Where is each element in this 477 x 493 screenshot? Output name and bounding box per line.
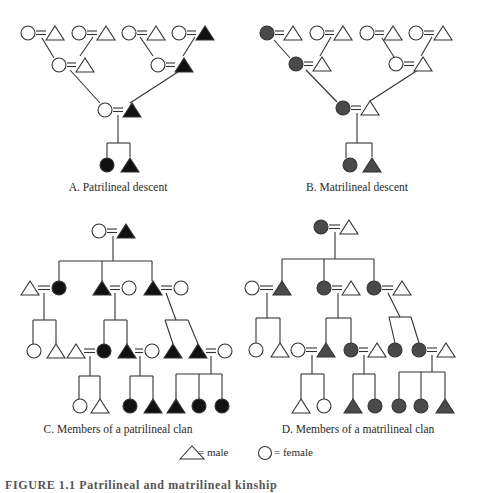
male-triangle-icon — [76, 58, 94, 72]
female-circle-icon — [122, 26, 136, 40]
female-circle-icon — [72, 26, 86, 40]
male-filled-triangle-icon — [344, 399, 362, 413]
female-filled-circle-icon — [52, 281, 66, 295]
female-circle-icon — [122, 281, 136, 295]
panel-matrilineal-descent — [260, 26, 452, 172]
descent-line — [306, 70, 337, 102]
male-filled-triangle-icon — [144, 399, 162, 413]
descent-line — [183, 37, 195, 56]
female-circle-icon — [389, 57, 403, 71]
descent-line — [165, 320, 173, 344]
male-filled-triangle-icon — [167, 399, 185, 413]
descent-line — [166, 293, 176, 320]
male-filled-triangle-icon — [436, 399, 454, 413]
caption-panel-c: C. Members of a patrilineal clan — [44, 423, 193, 435]
male-filled-triangle-icon — [164, 344, 182, 358]
descent-line — [320, 37, 331, 56]
male-triangle-icon — [368, 343, 386, 357]
legend-female-label: = female — [274, 446, 313, 458]
female-filled-circle-icon — [317, 281, 331, 295]
female-circle-icon — [92, 224, 106, 238]
female-circle-icon — [52, 58, 66, 72]
descent-line — [388, 293, 400, 317]
female-filled-circle-icon — [367, 281, 381, 295]
female-circle-icon — [249, 343, 263, 357]
female-filled-circle-icon — [100, 158, 114, 172]
legend-female-circle-icon — [259, 447, 272, 460]
female-circle-icon — [98, 103, 112, 117]
male-filled-triangle-icon — [117, 224, 135, 238]
male-triangle-icon — [271, 343, 289, 357]
male-triangle-icon — [340, 220, 358, 234]
panel-matrilineal-clan — [245, 220, 455, 413]
female-circle-icon — [27, 344, 41, 358]
male-triangle-icon — [393, 281, 411, 295]
female-filled-circle-icon — [314, 220, 328, 234]
female-filled-circle-icon — [414, 399, 428, 413]
female-circle-icon — [172, 26, 186, 40]
female-filled-circle-icon — [336, 101, 350, 115]
female-filled-circle-icon — [215, 399, 229, 413]
male-filled-triangle-icon — [189, 344, 207, 358]
female-filled-circle-icon — [412, 343, 426, 357]
male-triangle-icon — [21, 281, 39, 295]
male-triangle-icon — [334, 26, 352, 40]
caption-panel-b: B. Matrilineal descent — [306, 181, 408, 193]
female-circle-icon — [409, 26, 423, 40]
female-circle-icon — [145, 344, 159, 358]
descent-line — [130, 70, 181, 103]
male-triangle-icon — [437, 343, 455, 357]
male-filled-triangle-icon — [121, 158, 139, 172]
male-triangle-icon — [284, 26, 302, 40]
caption-panel-d: D. Members of a matrilineal clan — [282, 423, 435, 435]
male-triangle-icon — [342, 281, 360, 295]
panel-patrilineal-descent — [21, 26, 214, 172]
male-triangle-icon — [292, 399, 310, 413]
female-filled-circle-icon — [368, 399, 382, 413]
male-filled-triangle-icon — [175, 58, 193, 72]
female-filled-circle-icon — [192, 399, 206, 413]
female-circle-icon — [245, 281, 259, 295]
male-filled-triangle-icon — [196, 26, 214, 40]
female-filled-circle-icon — [344, 343, 358, 357]
female-circle-icon — [151, 58, 165, 72]
descent-line — [274, 40, 290, 58]
male-filled-triangle-icon — [363, 158, 381, 172]
descent-line — [370, 70, 418, 101]
male-triangle-icon — [67, 344, 85, 358]
female-circle-icon — [218, 344, 232, 358]
female-circle-icon — [174, 281, 188, 295]
descent-line — [42, 38, 54, 58]
female-circle-icon — [73, 399, 87, 413]
female-filled-circle-icon — [343, 158, 357, 172]
male-triangle-icon — [361, 101, 379, 115]
descent-line — [382, 38, 394, 57]
male-filled-triangle-icon — [273, 281, 291, 295]
male-triangle-icon — [434, 26, 452, 40]
descent-line — [70, 70, 100, 103]
female-filled-circle-icon — [289, 57, 303, 71]
descent-line — [389, 317, 395, 343]
male-triangle-icon — [97, 26, 115, 40]
descent-line — [188, 320, 198, 344]
female-circle-icon — [310, 26, 324, 40]
male-filled-triangle-icon — [118, 344, 136, 358]
male-triangle-icon — [47, 344, 65, 358]
male-triangle-icon — [147, 26, 165, 40]
female-circle-icon — [317, 399, 331, 413]
male-triangle-icon — [313, 57, 331, 71]
male-filled-triangle-icon — [123, 103, 141, 117]
female-filled-circle-icon — [260, 26, 274, 40]
female-filled-circle-icon — [392, 399, 406, 413]
legend-male-label: = male — [198, 446, 228, 458]
panel-patrilineal-clan — [21, 224, 232, 413]
female-filled-circle-icon — [388, 343, 402, 357]
male-filled-triangle-icon — [144, 281, 162, 295]
female-circle-icon — [360, 26, 374, 40]
descent-line — [421, 37, 432, 56]
female-filled-circle-icon — [123, 399, 137, 413]
female-filled-circle-icon — [97, 344, 111, 358]
male-triangle-icon — [91, 399, 109, 413]
female-circle-icon — [291, 343, 305, 357]
